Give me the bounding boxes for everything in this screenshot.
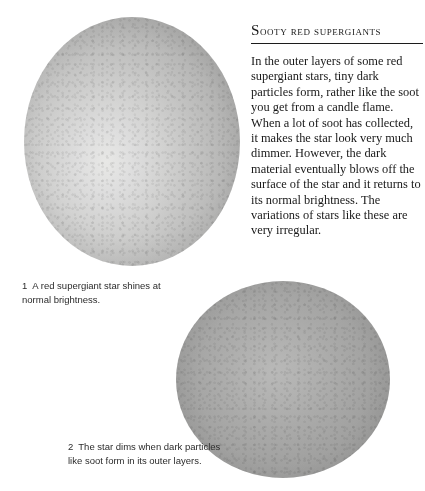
- article-text-column: Sooty red supergiants In the outer layer…: [251, 21, 423, 239]
- figure-number-1: 1: [22, 280, 27, 291]
- figure-caption-1: 1A red supergiant star shines at normal …: [22, 279, 187, 306]
- heading-divider-rule: [251, 43, 423, 44]
- figure-red-supergiant-normal-brightness: [24, 17, 240, 266]
- star-limb-shading: [24, 17, 240, 266]
- article-body-paragraph: In the outer layers of some red supergia…: [251, 54, 423, 239]
- running-head: The Stars: [22, 0, 222, 4]
- figure-caption-2: 2The star dims when dark particles like …: [68, 440, 233, 467]
- book-page: The Stars 1A red supergiant star shines …: [0, 0, 425, 491]
- figure-caption-text-1: A red supergiant star shines at normal b…: [22, 280, 161, 305]
- section-heading: Sooty red supergiants: [251, 21, 423, 43]
- figure-caption-text-2: The star dims when dark particles like s…: [68, 441, 220, 466]
- figure-number-2: 2: [68, 441, 73, 452]
